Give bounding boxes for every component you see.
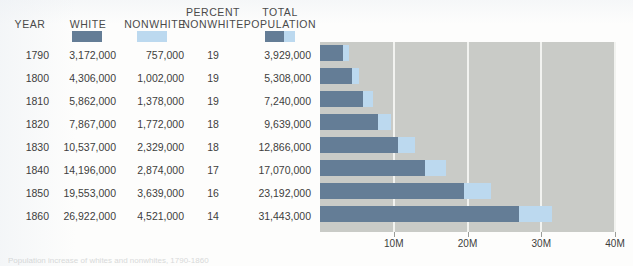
legend-swatch-total-white-half [265, 31, 284, 42]
bar-row-1830 [320, 137, 615, 153]
legend-swatch-total [265, 31, 295, 42]
bar-row-1790 [320, 45, 615, 61]
bar-segment-nonwhite-1800 [352, 68, 359, 84]
cell-nonwhite: 1,378,000 [114, 95, 184, 107]
cell-year: 1820 [0, 118, 49, 130]
cell-white: 3,172,000 [46, 49, 116, 61]
bar-segment-nonwhite-1850 [464, 183, 491, 199]
axis-label-40M: 40M [605, 238, 624, 249]
bar-segment-nonwhite-1860 [519, 206, 552, 222]
cell-total: 9,639,000 [231, 118, 311, 130]
bar-row-1850 [320, 183, 615, 199]
cell-nonwhite: 3,639,000 [114, 187, 184, 199]
cell-year: 1810 [0, 95, 49, 107]
cell-total: 31,443,000 [231, 210, 311, 222]
column-header-total-population: TOTALPOPULATION [220, 6, 340, 30]
cell-white: 10,537,000 [46, 141, 116, 153]
bar-row-1860 [320, 206, 615, 222]
cell-nonwhite: 2,874,000 [114, 164, 184, 176]
axis-label-20M: 20M [458, 238, 477, 249]
bar-segment-nonwhite-1830 [398, 137, 415, 153]
figure-root: YEARWHITENONWHITEPERCENTNONWHITETOTALPOP… [0, 0, 633, 266]
axis-tick-40M [615, 232, 616, 237]
bar-row-1820 [320, 114, 615, 130]
bar-segment-white-1820 [320, 114, 378, 130]
column-header-line: POPULATION [220, 18, 340, 30]
figure-caption: Population increase of whites and nonwhi… [8, 256, 209, 265]
cell-nonwhite: 757,000 [114, 49, 184, 61]
cell-year: 1790 [0, 49, 49, 61]
cell-white: 5,862,000 [46, 95, 116, 107]
axis-tick-30M [541, 232, 542, 237]
cell-total: 17,070,000 [231, 164, 311, 176]
cell-year: 1800 [0, 72, 49, 84]
bar-row-1800 [320, 68, 615, 84]
bar-row-1840 [320, 160, 615, 176]
cell-white: 4,306,000 [46, 72, 116, 84]
bar-segment-white-1790 [320, 45, 343, 61]
cell-white: 14,196,000 [46, 164, 116, 176]
bar-segment-white-1850 [320, 183, 464, 199]
cell-year: 1860 [0, 210, 49, 222]
cell-year: 1850 [0, 187, 49, 199]
legend-swatch-total-nonwhite-half [284, 31, 295, 42]
bar-segment-nonwhite-1840 [425, 160, 446, 176]
data-table: YEARWHITENONWHITEPERCENTNONWHITETOTALPOP… [0, 0, 318, 240]
cell-year: 1840 [0, 164, 49, 176]
cell-white: 19,553,000 [46, 187, 116, 199]
bar-segment-nonwhite-1810 [363, 91, 373, 107]
cell-white: 7,867,000 [46, 118, 116, 130]
bar-row-1810 [320, 91, 615, 107]
cell-nonwhite: 4,521,000 [114, 210, 184, 222]
cell-year: 1830 [0, 141, 49, 153]
bar-segment-white-1860 [320, 206, 519, 222]
bar-segment-nonwhite-1820 [378, 114, 391, 130]
cell-total: 23,192,000 [231, 187, 311, 199]
bar-segment-nonwhite-1790 [343, 45, 349, 61]
cell-total: 7,240,000 [231, 95, 311, 107]
bar-chart-plot-area [320, 42, 615, 232]
bar-segment-white-1840 [320, 160, 425, 176]
axis-label-10M: 10M [384, 238, 403, 249]
legend-swatch-white [72, 31, 102, 42]
axis-tick-10M [394, 232, 395, 237]
cell-nonwhite: 1,002,000 [114, 72, 184, 84]
cell-white: 26,922,000 [46, 210, 116, 222]
axis-tick-20M [468, 232, 469, 237]
cell-total: 3,929,000 [231, 49, 311, 61]
cell-total: 12,866,000 [231, 141, 311, 153]
bar-segment-white-1810 [320, 91, 363, 107]
bar-segment-white-1800 [320, 68, 352, 84]
legend-swatch-nonwhite [137, 31, 167, 42]
cell-total: 5,308,000 [231, 72, 311, 84]
cell-nonwhite: 1,772,000 [114, 118, 184, 130]
column-header-line: TOTAL [220, 6, 340, 18]
axis-label-30M: 30M [532, 238, 551, 249]
cell-nonwhite: 2,329,000 [114, 141, 184, 153]
bar-segment-white-1830 [320, 137, 398, 153]
